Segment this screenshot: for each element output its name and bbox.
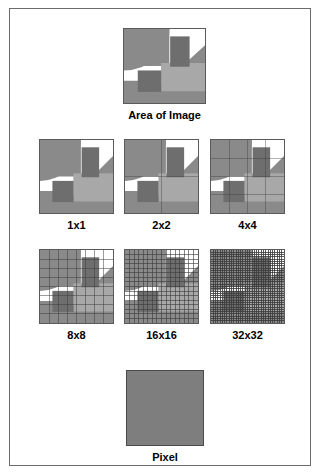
- sample-8x8-tile: [39, 249, 114, 324]
- sample-8x8-block: 8x8: [39, 249, 114, 342]
- sample-32x32-block: 32x32: [210, 249, 285, 342]
- sample-2x2-block: 2x2: [124, 139, 199, 232]
- image-artwork: [125, 140, 198, 213]
- single-pixel-swatch: [126, 370, 204, 446]
- sample-16x16-tile: [124, 249, 199, 324]
- figure-frame: Area of Image 1x1: [9, 8, 311, 466]
- image-artwork: [40, 250, 113, 323]
- area-of-image-block: Area of Image: [123, 28, 206, 122]
- image-artwork: [211, 250, 284, 323]
- sample-8x8-label: 8x8: [39, 329, 114, 342]
- image-artwork: [40, 140, 113, 213]
- image-artwork: [125, 250, 198, 323]
- single-pixel-label: Pixel: [126, 451, 204, 464]
- image-artwork: [124, 29, 205, 103]
- sample-4x4-label: 4x4: [210, 219, 285, 232]
- sample-4x4-block: 4x4: [210, 139, 285, 232]
- sample-2x2-tile: [124, 139, 199, 214]
- single-pixel-block: Pixel: [126, 370, 204, 464]
- sample-1x1-block: 1x1: [39, 139, 114, 232]
- sample-16x16-label: 16x16: [124, 329, 199, 342]
- sample-16x16-block: 16x16: [124, 249, 199, 342]
- sample-1x1-label: 1x1: [39, 219, 114, 232]
- sample-1x1-tile: [39, 139, 114, 214]
- sample-32x32-tile: [210, 249, 285, 324]
- image-artwork: [211, 140, 284, 213]
- sample-2x2-label: 2x2: [124, 219, 199, 232]
- sample-32x32-label: 32x32: [210, 329, 285, 342]
- area-of-image-label: Area of Image: [123, 109, 206, 122]
- area-of-image-tile: [123, 28, 206, 104]
- sample-4x4-tile: [210, 139, 285, 214]
